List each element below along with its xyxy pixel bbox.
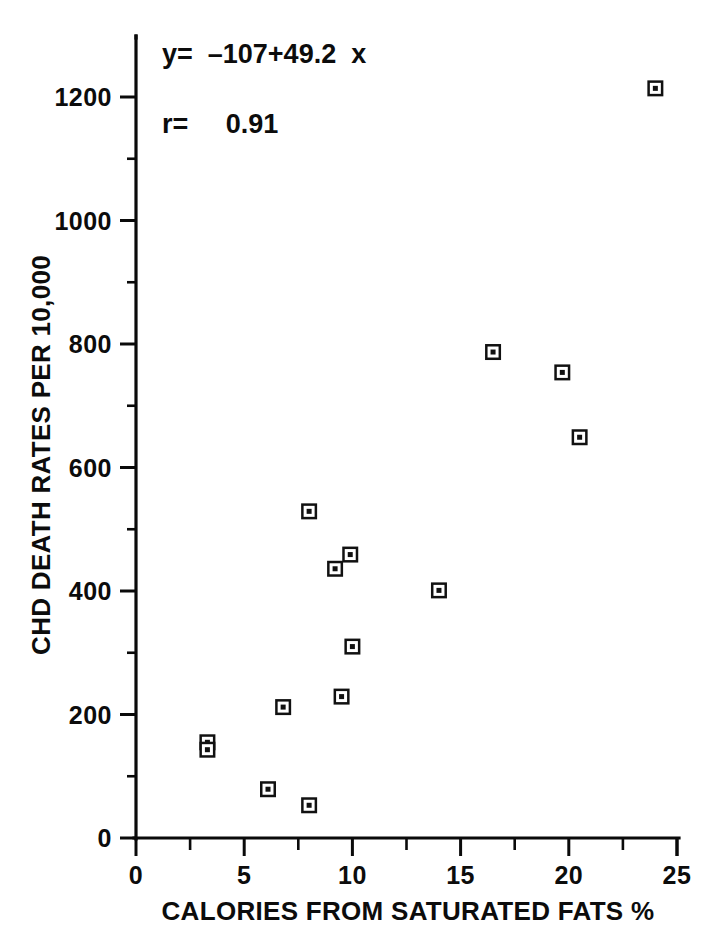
marker-inner	[307, 509, 312, 514]
x-tick-label-20: 20	[554, 861, 583, 889]
data-point	[260, 781, 276, 797]
data-point	[199, 742, 215, 758]
x-tick-label-25: 25	[663, 861, 692, 889]
y-tick-label-400: 400	[69, 577, 112, 605]
data-point	[301, 503, 317, 519]
x-axis-tick-labels: 0510152025	[129, 861, 692, 889]
marker-inner	[653, 86, 658, 91]
data-point-markers	[199, 80, 663, 813]
x-tick-label-15: 15	[446, 861, 475, 889]
regression-equation-annotation: y= –107+49.2 x	[162, 39, 366, 69]
data-point	[344, 639, 360, 655]
x-axis-title: CALORIES FROM SATURATED FATS %	[162, 896, 655, 926]
scatter-plot-figure: 020040060080010001200 0510152025 y= –107…	[0, 0, 718, 949]
data-point	[554, 364, 570, 380]
correlation-coefficient-annotation: r= 0.91	[162, 109, 278, 139]
data-point	[485, 344, 501, 360]
marker-inner	[560, 370, 565, 375]
marker-inner	[491, 350, 496, 355]
marker-inner	[577, 435, 582, 440]
y-axis-tick-labels: 020040060080010001200	[54, 83, 112, 852]
y-axis-major-ticks	[120, 36, 136, 838]
data-point	[301, 797, 317, 813]
plot-canvas: 020040060080010001200 0510152025 y= –107…	[0, 0, 718, 949]
marker-inner	[436, 588, 441, 593]
y-tick-label-600: 600	[69, 454, 112, 482]
marker-inner	[339, 694, 344, 699]
data-point	[275, 699, 291, 715]
data-point	[572, 429, 588, 445]
marker-inner	[307, 803, 312, 808]
x-tick-label-10: 10	[338, 861, 367, 889]
data-point	[431, 582, 447, 598]
data-point	[327, 561, 343, 577]
y-tick-label-0: 0	[98, 824, 112, 852]
x-tick-label-0: 0	[129, 861, 143, 889]
marker-inner	[333, 566, 338, 571]
x-tick-label-5: 5	[237, 861, 251, 889]
marker-inner	[205, 747, 210, 752]
data-point	[342, 547, 358, 563]
data-point	[647, 80, 663, 96]
y-tick-label-200: 200	[69, 701, 112, 729]
y-axis-title: CHD DEATH RATES PER 10,000	[26, 255, 56, 655]
y-tick-label-1000: 1000	[54, 207, 112, 235]
marker-inner	[281, 705, 286, 710]
x-axis-minor-ticks	[190, 838, 623, 850]
marker-inner	[350, 644, 355, 649]
data-point	[334, 689, 350, 705]
y-tick-label-800: 800	[69, 330, 112, 358]
y-tick-label-1200: 1200	[54, 83, 112, 111]
marker-inner	[348, 552, 353, 557]
marker-inner	[266, 787, 271, 792]
